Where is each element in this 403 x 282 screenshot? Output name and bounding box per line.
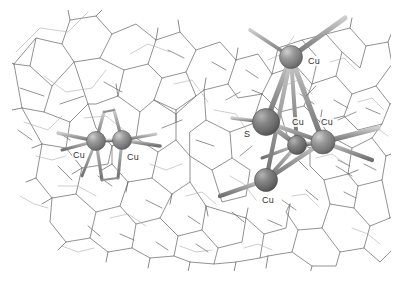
atom-label-cu-top: Cu bbox=[307, 56, 321, 66]
atom-label-s-center: S bbox=[243, 129, 251, 139]
atom-label-cu-left-1: Cu bbox=[72, 150, 86, 160]
atom-label-cu-left-2: Cu bbox=[126, 152, 140, 162]
left-cluster-bonds bbox=[58, 110, 160, 180]
atom-sphere-cu-right bbox=[311, 130, 335, 154]
atom-sphere-cu-left-2 bbox=[113, 131, 132, 150]
atom-label-cu-right: Cu bbox=[320, 117, 334, 127]
atom-label-cu-mid: Cu bbox=[291, 117, 305, 127]
molecule-canvas bbox=[0, 0, 403, 282]
atom-sphere-cu-bottom bbox=[255, 169, 278, 192]
atom-sphere-cu-top bbox=[280, 46, 303, 69]
atom-sphere-cu-inner bbox=[288, 136, 307, 155]
atom-label-cu-bottom: Cu bbox=[261, 195, 275, 205]
atom-sphere-cu-left-1 bbox=[87, 132, 106, 151]
molecular-structure-figure: Cu Cu Cu S Cu Cu Cu bbox=[0, 0, 403, 282]
page-margin-mask bbox=[0, 0, 403, 282]
atom-sphere-s-center bbox=[253, 109, 280, 136]
